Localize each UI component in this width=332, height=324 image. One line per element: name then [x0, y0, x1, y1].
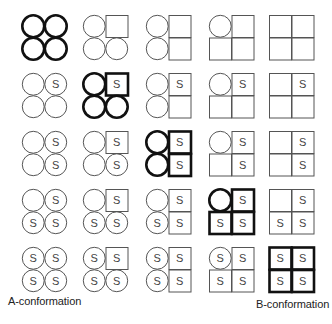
substrate-marker: S	[113, 159, 120, 171]
substrate-marker: S	[52, 275, 59, 287]
b-state-subunit-square	[210, 154, 232, 176]
substrate-marker: S	[239, 159, 246, 171]
substrate-marker: S	[154, 275, 161, 287]
grid-cell: SS	[83, 131, 128, 175]
a-state-subunit-circle	[22, 38, 44, 60]
grid-cell: SSSS	[209, 247, 254, 292]
grid-cell	[146, 15, 191, 60]
b-state-subunit-square	[210, 96, 232, 118]
substrate-marker: S	[299, 275, 306, 287]
grid-cell: SS	[209, 131, 254, 176]
b-state-subunit-square	[270, 16, 292, 38]
conformation-grid-diagram: SSSSSSSSSSSSSSSSSSSSSSSSSSSSSSSSSSSSSSSS…	[0, 0, 332, 324]
grid-cell: S	[209, 73, 254, 118]
substrate-marker: S	[30, 275, 37, 287]
substrate-marker: S	[52, 78, 59, 90]
a-state-subunit-circle	[83, 131, 105, 153]
substrate-marker: S	[299, 194, 306, 206]
b-state-subunit-square	[210, 38, 232, 60]
substrate-marker: S	[91, 217, 98, 229]
a-state-subunit-circle	[45, 96, 67, 118]
grid-cell	[270, 16, 315, 61]
b-state-subunit-square	[232, 38, 254, 60]
substrate-marker: S	[113, 136, 120, 148]
b-state-subunit-square	[106, 16, 128, 38]
substrate-marker: S	[239, 136, 246, 148]
substrate-marker: S	[217, 275, 224, 287]
a-state-subunit-circle	[83, 189, 105, 211]
substrate-marker: S	[52, 159, 59, 171]
grid-canvas: SSSSSSSSSSSSSSSSSSSSSSSSSSSSSSSSSSSSSSSS…	[0, 0, 332, 324]
b-state-subunit-square	[169, 96, 191, 118]
a-state-subunit-circle	[22, 131, 44, 153]
grid-cell: SS	[146, 131, 191, 176]
b-state-subunit-square	[232, 96, 254, 118]
substrate-marker: S	[277, 217, 284, 229]
a-state-subunit-circle	[146, 96, 168, 118]
a-state-subunit-circle	[209, 15, 231, 37]
b-conformation-label: B-conformation	[256, 298, 329, 310]
a-state-subunit-circle	[83, 38, 105, 60]
substrate-marker: S	[52, 217, 59, 229]
grid-cell: SS	[270, 132, 315, 177]
a-state-subunit-circle	[83, 15, 105, 37]
a-state-subunit-circle	[22, 154, 44, 176]
a-state-subunit-circle	[146, 154, 168, 176]
grid-cell: S	[146, 73, 191, 118]
grid-cell: SSS	[22, 189, 66, 233]
a-state-subunit-circle	[22, 73, 44, 95]
substrate-marker: S	[91, 275, 98, 287]
a-state-subunit-circle	[22, 189, 44, 211]
substrate-marker: S	[217, 252, 224, 264]
substrate-marker: S	[277, 275, 284, 287]
substrate-marker: S	[52, 136, 59, 148]
a-state-subunit-circle	[106, 96, 128, 118]
substrate-marker: S	[299, 252, 306, 264]
a-state-subunit-circle	[146, 189, 168, 211]
substrate-marker: S	[154, 252, 161, 264]
grid-cell	[22, 15, 66, 59]
b-state-subunit-square	[270, 132, 292, 154]
b-state-subunit-square	[270, 190, 292, 212]
substrate-marker: S	[113, 252, 120, 264]
substrate-marker: S	[239, 217, 246, 229]
substrate-marker: S	[52, 252, 59, 264]
a-state-subunit-circle	[45, 38, 67, 60]
grid-cell: SSS	[83, 189, 128, 233]
b-state-subunit-square	[270, 96, 292, 118]
substrate-marker: S	[113, 275, 120, 287]
a-conformation-label: A-conformation	[8, 295, 81, 307]
substrate-marker: S	[176, 136, 183, 148]
b-state-subunit-square	[270, 74, 292, 96]
substrate-marker: S	[299, 217, 306, 229]
substrate-marker: S	[299, 159, 306, 171]
b-state-subunit-square	[292, 16, 314, 38]
substrate-marker: S	[52, 194, 59, 206]
b-state-subunit-square	[270, 38, 292, 60]
grid-cell: S	[22, 73, 66, 117]
b-state-subunit-square	[292, 38, 314, 60]
b-state-subunit-square	[169, 16, 191, 38]
substrate-marker: S	[239, 275, 246, 287]
grid-cell	[83, 15, 128, 59]
substrate-marker: S	[176, 217, 183, 229]
a-state-subunit-circle	[83, 96, 105, 118]
a-state-subunit-circle	[83, 73, 105, 95]
substrate-marker: S	[239, 78, 246, 90]
substrate-marker: S	[277, 252, 284, 264]
substrate-marker: S	[239, 194, 246, 206]
substrate-marker: S	[299, 78, 306, 90]
b-state-subunit-square	[270, 154, 292, 176]
a-state-subunit-circle	[106, 38, 128, 60]
b-state-subunit-square	[232, 16, 254, 38]
a-state-subunit-circle	[209, 73, 231, 95]
substrate-marker: S	[176, 252, 183, 264]
substrate-marker: S	[299, 136, 306, 148]
grid-cell	[209, 15, 254, 60]
a-state-subunit-circle	[22, 96, 44, 118]
substrate-marker: S	[113, 194, 120, 206]
substrate-marker: S	[113, 217, 120, 229]
substrate-marker: S	[176, 275, 183, 287]
grid-cell: SSSS	[270, 248, 315, 293]
grid-cell: S	[270, 74, 315, 119]
